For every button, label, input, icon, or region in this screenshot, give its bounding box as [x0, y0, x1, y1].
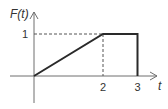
x-tick-label: 3 [134, 81, 140, 93]
x-tick-label: 2 [100, 81, 106, 93]
x-axis-label: t [158, 79, 162, 93]
y-axis-label: F(t) [10, 7, 29, 21]
function-curve [34, 34, 138, 76]
function-graph: F(t) t 1 2 3 [0, 0, 168, 109]
y-tick-label: 1 [22, 28, 28, 40]
